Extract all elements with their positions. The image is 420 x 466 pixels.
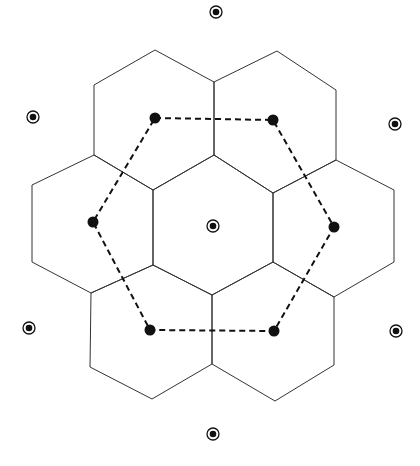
dot-left-icon xyxy=(88,217,99,228)
dot-bottom-left-icon xyxy=(145,325,156,336)
target-upper-left-icon xyxy=(27,111,39,123)
dot-top-right-icon xyxy=(268,115,279,126)
target-markers xyxy=(23,6,402,440)
target-center-icon xyxy=(207,220,219,232)
dot-right-icon xyxy=(329,222,340,233)
target-lower-right-icon xyxy=(390,325,402,337)
hex-cell-diagram xyxy=(0,0,420,466)
target-top-icon xyxy=(210,6,222,18)
target-bottom-icon xyxy=(207,428,219,440)
target-lower-left-icon xyxy=(23,322,35,334)
dot-bottom-right-icon xyxy=(269,326,280,337)
dot-top-left-icon xyxy=(150,113,161,124)
target-upper-right-icon xyxy=(389,118,401,130)
